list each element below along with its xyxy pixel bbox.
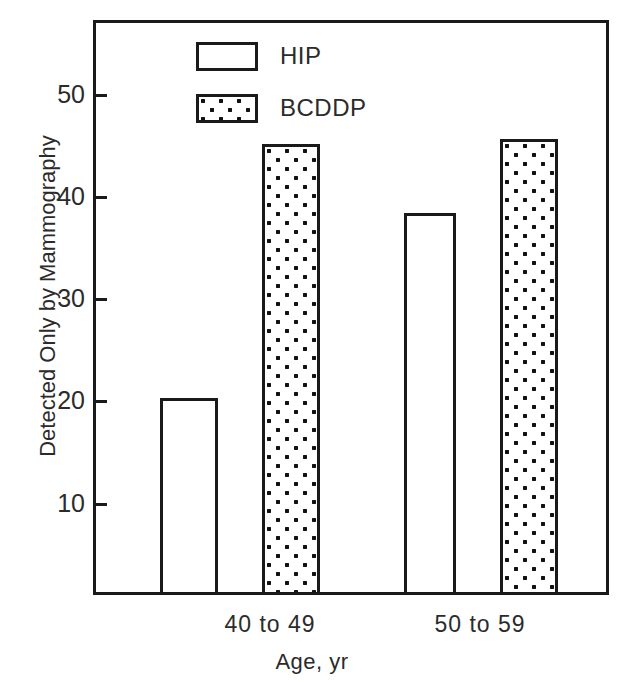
bar-chart-figure: 50 40 30 20 10 Detected Only by Mammogra… (0, 0, 624, 682)
y-tick-40 (93, 196, 107, 199)
bar-hip-40-to-49 (160, 398, 218, 595)
legend-entry-bcddp: BCDDP (196, 88, 446, 128)
x-group-label-50-to-59: 50 to 59 (390, 613, 570, 636)
legend-label-hip: HIP (280, 44, 322, 68)
bar-hip-50-to-59 (404, 213, 456, 595)
empty-box-swatch-icon (196, 42, 258, 71)
dotted-box-swatch-icon (196, 94, 258, 123)
legend-entry-hip: HIP (196, 36, 446, 76)
y-tick-label-10: 10 (0, 491, 85, 516)
bar-bcddp-50-to-59 (500, 139, 558, 595)
y-tick-label-50: 50 (0, 82, 85, 107)
legend: HIP BCDDP (196, 36, 446, 140)
legend-label-bcddp: BCDDP (280, 96, 367, 120)
y-axis-title: Detected Only by Mammography (37, 116, 59, 476)
y-tick-20 (93, 400, 107, 403)
y-tick-30 (93, 298, 107, 301)
x-group-label-40-to-49: 40 to 49 (180, 613, 360, 636)
y-tick-10 (93, 503, 107, 506)
bar-bcddp-40-to-49 (262, 144, 320, 595)
x-axis-title: Age, yr (0, 651, 624, 673)
y-tick-50 (93, 94, 107, 97)
